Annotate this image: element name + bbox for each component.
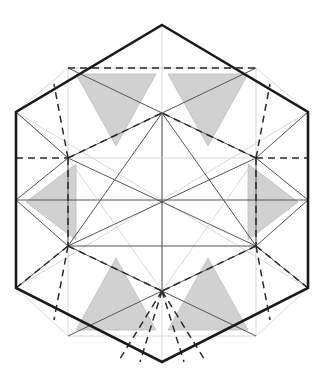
faint-lower-right-diag [162, 200, 308, 288]
faint-bottom-band-left [16, 288, 68, 336]
faint-top-band-left [16, 68, 68, 112]
faint-top-band-right [256, 68, 308, 112]
left-edge-spoke-lower [16, 246, 68, 288]
hexagon-construction-figure [0, 0, 324, 388]
faint-upper-right-diag [162, 112, 308, 200]
faint-lower-left-diag [16, 200, 162, 288]
faint-bottom-band-right [256, 288, 308, 336]
figure-root [0, 0, 324, 388]
faint-upper-left-diag [16, 112, 162, 200]
right-edge-spoke-lower [256, 246, 308, 288]
